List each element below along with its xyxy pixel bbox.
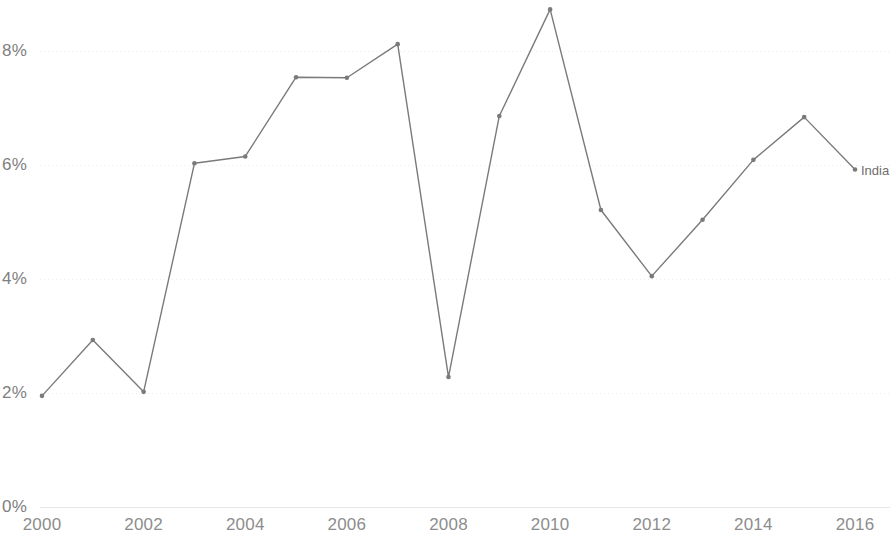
data-point[interactable] (497, 114, 502, 119)
y-tick-0%: 0% (2, 498, 27, 515)
data-point[interactable] (294, 75, 299, 80)
x-tick-2004: 2004 (226, 516, 265, 533)
x-tick-2000: 2000 (23, 516, 62, 533)
data-point[interactable] (91, 338, 96, 343)
line-chart: 0%2%4%6%8% 20002002200420062008201020122… (0, 0, 894, 540)
y-tick-4%: 4% (2, 270, 27, 287)
data-point[interactable] (141, 390, 146, 395)
data-point[interactable] (395, 42, 400, 47)
chart-plot-area (0, 0, 894, 540)
x-tick-2012: 2012 (632, 516, 671, 533)
series-line-india (42, 9, 855, 395)
data-point[interactable] (700, 217, 705, 222)
data-point[interactable] (802, 115, 807, 120)
y-tick-2%: 2% (2, 384, 27, 401)
data-point[interactable] (853, 167, 858, 172)
x-tick-2010: 2010 (531, 516, 570, 533)
x-tick-2014: 2014 (734, 516, 773, 533)
series-paths (42, 9, 855, 395)
data-point[interactable] (40, 394, 45, 399)
data-point[interactable] (243, 154, 248, 159)
x-tick-2008: 2008 (429, 516, 468, 533)
data-point[interactable] (751, 158, 756, 163)
y-tick-8%: 8% (2, 42, 27, 59)
data-point[interactable] (192, 161, 197, 166)
data-point[interactable] (599, 208, 604, 213)
x-tick-2016: 2016 (836, 516, 875, 533)
x-tick-2006: 2006 (328, 516, 367, 533)
data-point[interactable] (446, 375, 451, 380)
series-label-india: India (861, 164, 889, 177)
x-tick-2002: 2002 (124, 516, 163, 533)
data-point[interactable] (345, 75, 350, 80)
y-tick-6%: 6% (2, 156, 27, 173)
series-data-points (40, 7, 858, 398)
data-point[interactable] (649, 274, 654, 279)
gridlines (40, 52, 890, 508)
data-point[interactable] (548, 7, 553, 12)
